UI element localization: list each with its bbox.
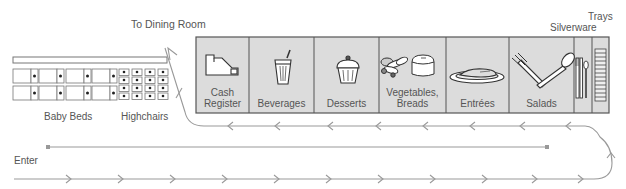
baby-beds-label: Baby Beds (44, 111, 92, 122)
station-cash-register: Cash Register (196, 87, 249, 109)
silverware-icon (576, 58, 588, 98)
rail (13, 57, 167, 63)
station-beverages: Beverages (249, 98, 314, 109)
station-label: Entrées (446, 98, 509, 109)
station-label: Beverages (249, 98, 314, 109)
station-label: Breads (379, 98, 446, 109)
layout-diagram (0, 0, 626, 189)
highchairs-label: Highchairs (121, 111, 168, 122)
silverware-label: Silverware (550, 22, 597, 33)
trays-label: Trays (588, 11, 613, 22)
trays-icon (595, 49, 606, 101)
baby-beds (13, 69, 117, 100)
station-label: Salads (509, 98, 574, 109)
station-label: Register (196, 98, 249, 109)
to-dining-room-label: To Dining Room (131, 19, 206, 30)
station-entrees: Entrées (446, 98, 509, 109)
station-label: Vegetables, (379, 87, 446, 98)
station-desserts: Desserts (314, 98, 379, 109)
station-label: Desserts (314, 98, 379, 109)
enter-label: Enter (14, 155, 38, 166)
station-label: Cash (196, 87, 249, 98)
station-salads: Salads (509, 98, 574, 109)
highchairs (119, 69, 168, 100)
station-vegetables-breads: Vegetables, Breads (379, 87, 446, 109)
